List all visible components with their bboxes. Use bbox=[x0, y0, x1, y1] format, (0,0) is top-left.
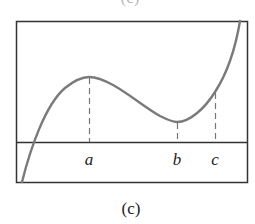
cubic-function-graph: (c) a b c (c) bbox=[0, 0, 255, 224]
label-a: a bbox=[85, 150, 94, 169]
cubic-curve bbox=[22, 21, 240, 182]
figure-caption: (c) bbox=[122, 199, 141, 218]
label-c: c bbox=[211, 150, 219, 169]
label-b: b bbox=[173, 150, 182, 169]
previous-figure-caption: (c) bbox=[121, 0, 140, 7]
